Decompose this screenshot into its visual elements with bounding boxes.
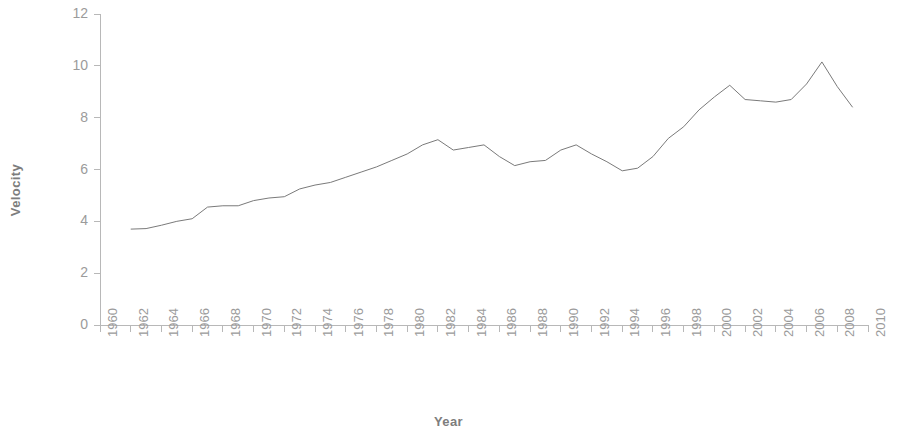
x-tick-label: 1972 — [289, 308, 304, 337]
x-tick-label: 1976 — [351, 308, 366, 337]
x-tick-label: 2002 — [750, 308, 765, 337]
x-tick-label: 2004 — [781, 308, 796, 337]
x-tick-label: 1962 — [136, 308, 151, 337]
data-series-group — [131, 62, 853, 229]
x-tick-label: 2000 — [719, 308, 734, 337]
x-tick-label: 1990 — [566, 308, 581, 337]
y-tick-marks — [94, 14, 100, 325]
x-tick-label: 1998 — [689, 308, 704, 337]
y-tick-label: 6 — [54, 161, 88, 177]
y-tick-label: 8 — [54, 109, 88, 125]
line-chart-velocity-vs-year: Velocity 024681012 196019621964196619681… — [0, 0, 897, 442]
axis-group — [100, 14, 868, 325]
x-tick-label: 1982 — [443, 308, 458, 337]
x-tick-label: 1970 — [259, 308, 274, 337]
x-tick-label: 1980 — [412, 308, 427, 337]
x-tick-label: 1978 — [381, 308, 396, 337]
data-series-line — [131, 62, 853, 229]
y-tick-label: 10 — [54, 57, 88, 73]
x-tick-label: 1986 — [504, 308, 519, 337]
x-tick-label: 1968 — [228, 308, 243, 337]
x-tick-label: 1994 — [627, 308, 642, 337]
plot-area — [0, 0, 897, 442]
x-tick-label: 2010 — [873, 308, 888, 337]
x-tick-label: 1964 — [166, 308, 181, 337]
x-axis-title: Year — [0, 414, 897, 429]
y-tick-label: 2 — [54, 264, 88, 280]
x-tick-label: 1960 — [105, 308, 120, 337]
x-tick-label: 2006 — [812, 308, 827, 337]
x-tick-label: 1974 — [320, 308, 335, 337]
y-tick-label: 4 — [54, 212, 88, 228]
y-tick-label: 0 — [54, 316, 88, 332]
x-tick-label: 1988 — [535, 308, 550, 337]
x-tick-label: 2008 — [842, 308, 857, 337]
y-tick-label: 12 — [54, 5, 88, 21]
x-tick-label: 1996 — [658, 308, 673, 337]
x-tick-label: 1992 — [597, 308, 612, 337]
x-tick-label: 1966 — [197, 308, 212, 337]
x-tick-label: 1984 — [474, 308, 489, 337]
